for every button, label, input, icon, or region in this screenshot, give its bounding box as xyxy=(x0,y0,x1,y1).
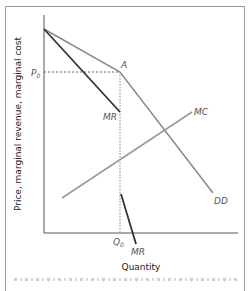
mr-upper-label: MR xyxy=(103,112,117,122)
marginal-revenue-lower xyxy=(121,194,136,244)
marginal-cost-curve xyxy=(62,112,192,198)
marginal-revenue-upper xyxy=(44,29,120,112)
demand-curve-dd xyxy=(44,29,213,193)
q0-label: Q0 xyxy=(113,237,124,248)
mc-label: MC xyxy=(194,107,209,117)
dd-label: DD xyxy=(214,196,228,206)
truncated-caption-text xyxy=(14,278,240,281)
mr-lower-label: MR xyxy=(131,247,145,257)
x-axis-label: Quantity xyxy=(122,262,162,272)
y-axis-label: Price, marginal revenue, marginal cost xyxy=(13,36,23,211)
p0-label: P0 xyxy=(31,68,40,79)
point-a-label: A xyxy=(120,60,127,70)
